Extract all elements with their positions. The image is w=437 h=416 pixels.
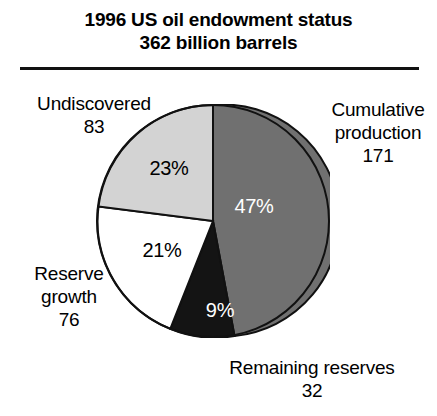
- title-divider-rule: [20, 67, 419, 70]
- pie-percent-cumulative-production: 47%: [222, 196, 286, 216]
- callout-remaining-reserves-value: 32: [187, 379, 437, 402]
- callout-cumulative-production-name-line-2: production: [322, 121, 434, 144]
- callout-cumulative-production-name-line-1: Cumulative: [322, 98, 434, 121]
- callout-reserve-growth-value: 76: [8, 308, 130, 331]
- callout-reserve-growth-name-line-2: growth: [8, 285, 130, 308]
- callout-remaining-reserves-name: Remaining reserves: [187, 356, 437, 379]
- callout-reserve-growth-name-line-1: Reserve: [8, 262, 130, 285]
- pie-percent-undiscovered: 23%: [140, 158, 198, 178]
- callout-undiscovered-value: 83: [14, 115, 174, 138]
- pie-chart-figure: 1996 US oil endowment status 362 billion…: [0, 0, 437, 416]
- callout-cumulative-production-value: 171: [322, 144, 434, 167]
- chart-title-line-1: 1996 US oil endowment status: [0, 8, 437, 31]
- callout-undiscovered-name: Undiscovered: [14, 92, 174, 115]
- callout-undiscovered: Undiscovered 83: [14, 92, 174, 138]
- chart-title: 1996 US oil endowment status 362 billion…: [0, 8, 437, 54]
- pie-percent-remaining-reserves: 9%: [196, 300, 244, 320]
- pie-percent-reserve-growth: 21%: [134, 240, 190, 260]
- callout-cumulative-production: Cumulative production 171: [322, 98, 434, 167]
- callout-remaining-reserves: Remaining reserves 32: [187, 356, 437, 402]
- chart-title-line-2: 362 billion barrels: [0, 31, 437, 54]
- callout-reserve-growth: Reserve growth 76: [8, 262, 130, 331]
